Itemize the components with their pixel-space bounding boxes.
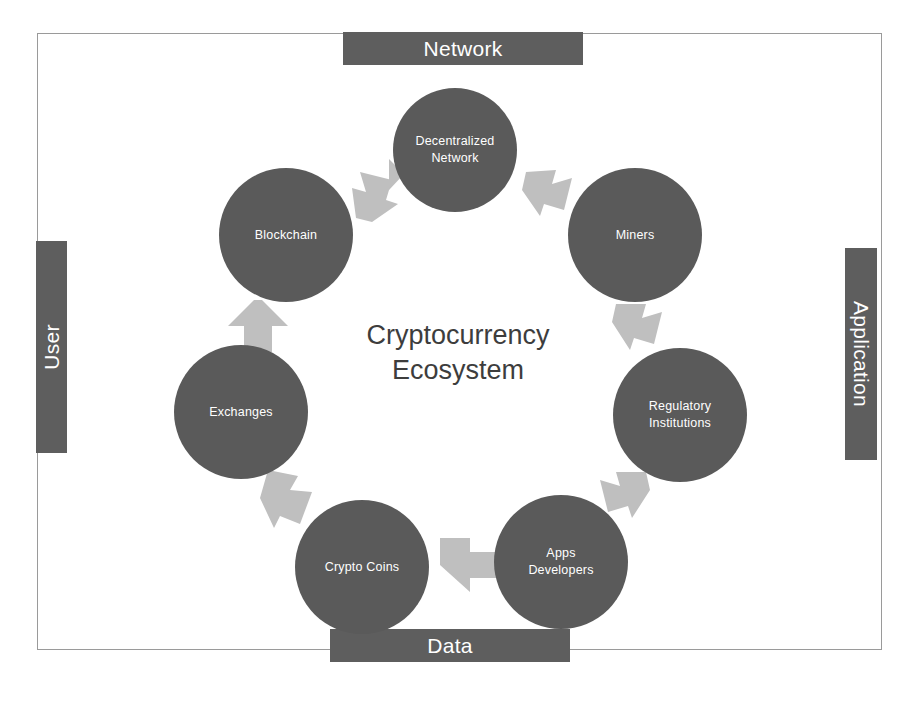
node-decentralized-network[interactable]: Decentralized Network: [393, 88, 517, 212]
node-crypto-coins-label: Crypto Coins: [315, 559, 410, 576]
node-exchanges[interactable]: Exchanges: [174, 345, 308, 479]
node-apps-developers-label: Apps Developers: [518, 545, 603, 579]
edge-label-network-text: Network: [423, 37, 502, 61]
node-decentralized-network-label: Decentralized Network: [405, 133, 504, 167]
edge-label-network: Network: [343, 32, 583, 65]
edge-label-application: Application: [845, 248, 877, 460]
node-blockchain-label: Blockchain: [245, 227, 327, 244]
node-exchanges-label: Exchanges: [199, 404, 283, 421]
edge-label-data: Data: [330, 629, 570, 662]
edge-label-application-text: Application: [849, 301, 873, 407]
node-regulatory-institutions[interactable]: Regulatory Institutions: [613, 348, 747, 482]
node-apps-developers[interactable]: Apps Developers: [494, 495, 628, 629]
node-blockchain[interactable]: Blockchain: [219, 168, 353, 302]
edge-label-user-text: User: [40, 324, 64, 370]
node-miners-label: Miners: [606, 227, 665, 244]
diagram-canvas: Network Application Data User: [0, 0, 915, 710]
diagram-center-title: Cryptocurrency Ecosystem: [308, 318, 608, 387]
node-regulatory-institutions-label: Regulatory Institutions: [639, 398, 721, 432]
edge-label-data-text: Data: [427, 634, 473, 658]
node-miners[interactable]: Miners: [568, 168, 702, 302]
node-crypto-coins[interactable]: Crypto Coins: [295, 500, 429, 634]
edge-label-user: User: [36, 241, 67, 453]
